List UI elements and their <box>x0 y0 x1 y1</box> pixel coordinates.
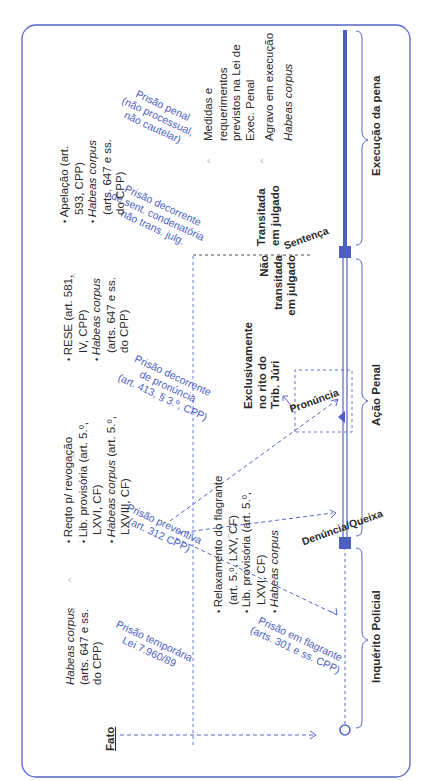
chevron-up-icon: ⌃ <box>70 605 84 615</box>
sentenca-square-marker <box>339 246 351 258</box>
phase-label-acao-penal: Ação Penal <box>370 364 382 426</box>
pronuncia-triangle-marker <box>338 411 345 423</box>
remedios-flagrante: Relaxamento do flagrante (art. 5.º, LXV,… <box>212 473 283 613</box>
chevron-up-icon: ⌃ <box>225 531 239 541</box>
remedios-sentenca: Apelação (art. 593, CPP) Habeas corpus (… <box>58 123 128 223</box>
chevron-up-icon: ⌃ <box>205 156 219 166</box>
chevron-up-icon: ⌃ <box>70 451 84 461</box>
phase-label-execucao: Execução da pena <box>370 76 382 176</box>
criminal-procedure-diagram: ⌃ Fato Inquérito Policial Ação Penal Exe… <box>0 0 425 781</box>
remedios-temporaria: Habeas corpus (arts. 647 e ss. do CPP) <box>64 585 105 685</box>
remedios-penal: Medidas e requerimentos previstos na Lei… <box>202 31 296 141</box>
denuncia-square-marker <box>339 537 351 549</box>
chevron-up-icon: ⌃ <box>70 271 84 281</box>
chevron-up-icon: ⌃ <box>258 156 272 166</box>
brace-execucao <box>356 31 368 245</box>
fato-label: Fato <box>104 727 116 751</box>
note-transitada: Transitada em julgado <box>255 176 282 246</box>
remedios-preventiva: Reqto p/ revogação Lib. provisória (art.… <box>62 403 133 543</box>
brace-inquerito <box>356 548 368 728</box>
phase-label-inquerito: Inquérito Policial <box>370 590 382 683</box>
brace-acao-penal <box>356 259 368 536</box>
fato-circle-marker <box>340 725 350 735</box>
chevron-icon: ⌃ <box>66 575 80 585</box>
note-juri: Exclusivamente no rito do Trib. Júri <box>242 329 283 409</box>
note-nao-transitada: Não transitada em julgado <box>258 255 299 325</box>
